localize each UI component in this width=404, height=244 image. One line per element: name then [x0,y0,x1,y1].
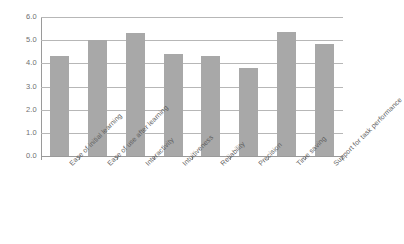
y-axis-tick-labels: 0.01.02.03.04.05.06.0 [0,17,37,156]
bar-slot [41,17,79,156]
y-axis-tick-label: 5.0 [3,36,37,44]
bar-series [41,17,343,156]
y-axis-tick-label: 4.0 [3,59,37,67]
x-axis-category-labels: Ease of initial learningEase of use afte… [0,160,348,244]
y-axis-tick-label: 6.0 [3,13,37,21]
bar-slot [154,17,192,156]
bar[interactable] [277,32,296,156]
y-axis-tick-label: 0.0 [3,152,37,160]
y-axis-tick-label: 1.0 [3,129,37,137]
bar[interactable] [50,56,69,156]
x-axis-category-label: Support for task performance [332,96,404,168]
y-axis-tick-label: 2.0 [3,106,37,114]
bar-slot [230,17,268,156]
bar-slot [268,17,306,156]
y-axis-tick-label: 3.0 [3,83,37,91]
